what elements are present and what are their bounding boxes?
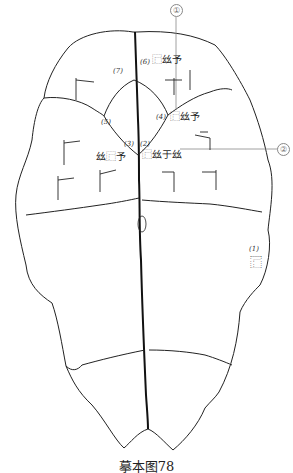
plastron-outline xyxy=(16,31,272,450)
inscription-number-1: (1) xyxy=(249,246,259,253)
callout-2: ② xyxy=(277,143,290,156)
callout-1: ① xyxy=(170,4,183,17)
inscription-upper-right: ⿸𢆶予𠀠 xyxy=(152,55,182,65)
abdominal-crack xyxy=(26,198,262,215)
inscription-number-4: (4) xyxy=(156,114,166,121)
inscription-number-3: (3) xyxy=(124,141,134,148)
inscription-lower-left: 𢆶⿸予 xyxy=(96,152,126,162)
midline-crack xyxy=(135,32,148,429)
inscription-mid-right: ⿸𢆶予𠀠 xyxy=(170,112,200,122)
plastron-drawing xyxy=(0,0,293,473)
inscription-side-right: ⿸ xyxy=(250,258,262,268)
inscription-number-7: (7) xyxy=(113,68,123,75)
inscription-lower-right: ⿸𢆶于𠀠𢆶 xyxy=(142,150,182,160)
inscription-number-2: (2) xyxy=(140,141,150,148)
inscription-number-6: (6) xyxy=(140,59,150,66)
inscription-number-5: (5) xyxy=(101,119,111,126)
figure-caption: 摹本图78 xyxy=(0,456,293,473)
femoral-crack xyxy=(66,350,232,370)
left-scute-line xyxy=(44,97,104,116)
